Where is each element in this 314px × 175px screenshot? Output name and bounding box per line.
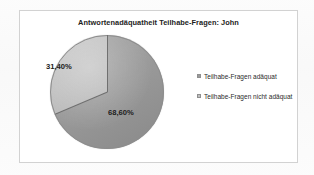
pie-data-label-nicht-adaequat: 31,40% xyxy=(46,62,72,71)
screenshot-root: Antwortenadäquatheit Teilhabe-Fragen: Jo… xyxy=(0,0,314,175)
legend-item-nicht-adaequat[interactable]: Teilhabe-Fragen nicht adäquat xyxy=(197,92,293,101)
pie-chart xyxy=(50,35,164,149)
chart-legend: Teilhabe-Fragen adäquat Teilhabe-Fragen … xyxy=(197,72,293,112)
legend-item-label: Teilhabe-Fragen nicht adäquat xyxy=(204,92,292,101)
chart-title: Antwortenadäquatheit Teilhabe-Fragen: Jo… xyxy=(20,18,297,27)
pie-data-label-adaequat: 68,60% xyxy=(108,108,134,117)
chart-frame: Antwortenadäquatheit Teilhabe-Fragen: Jo… xyxy=(19,10,298,163)
legend-item-adaequat[interactable]: Teilhabe-Fragen adäquat xyxy=(197,72,293,81)
pie-disc xyxy=(50,35,164,149)
legend-item-label: Teilhabe-Fragen adäquat xyxy=(204,72,277,81)
square-marker-icon xyxy=(197,74,201,78)
square-marker-icon xyxy=(197,94,201,98)
